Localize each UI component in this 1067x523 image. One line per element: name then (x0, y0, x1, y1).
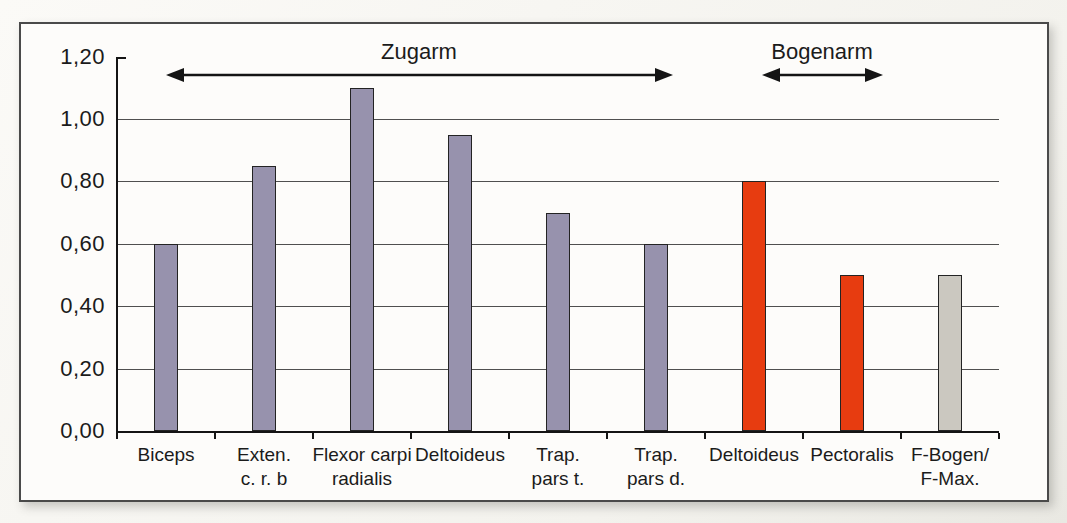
bar-8-f-bogen-f-max (938, 275, 962, 431)
y-tick-label: 0,60 (31, 233, 105, 255)
y-tick-label: 1,00 (31, 108, 105, 130)
bogenarm-label: Bogenarm (722, 39, 922, 65)
x-category-label-line: F-Max. (880, 467, 1020, 491)
bar-0-biceps (154, 244, 178, 431)
x-axis-tick (802, 433, 804, 439)
y-axis (116, 57, 118, 433)
zugarm-arrow (166, 67, 673, 83)
x-category-label-line: pars d. (586, 467, 726, 491)
x-category-label: F-Bogen/F-Max. (880, 443, 1020, 491)
x-axis-tick (410, 433, 412, 439)
x-axis-tick (214, 433, 216, 439)
chart-frame: 0,000,200,400,600,801,001,20BicepsExten.… (19, 22, 1049, 502)
x-axis (117, 431, 999, 433)
y-tick-label: 0,80 (31, 170, 105, 192)
x-axis-tick (312, 433, 314, 439)
y-tick-label: 0,00 (31, 420, 105, 442)
gridline (117, 181, 999, 182)
bar-6-deltoideus (742, 181, 766, 431)
x-axis-tick (116, 433, 118, 439)
x-category-label-line: radialis (292, 467, 432, 491)
bar-5-trap-pars-d (644, 244, 668, 431)
x-category-label-line: F-Bogen/ (880, 443, 1020, 467)
x-axis-tick (606, 433, 608, 439)
y-tick-label: 1,20 (31, 46, 105, 68)
gridline (117, 119, 999, 120)
x-axis-tick (900, 433, 902, 439)
bogenarm-arrow (762, 67, 883, 83)
bar-7-pectoralis (840, 275, 864, 431)
bar-chart: 0,000,200,400,600,801,001,20BicepsExten.… (21, 24, 1047, 500)
x-axis-tick (704, 433, 706, 439)
double-arrow-icon (762, 67, 883, 83)
x-axis-tick (998, 433, 1000, 439)
y-tick-label: 0,20 (31, 358, 105, 380)
zugarm-label: Zugarm (319, 39, 519, 65)
bar-1-exten-c-r-b (252, 166, 276, 431)
y-axis-top-tick (117, 57, 126, 59)
double-arrow-icon (166, 67, 673, 83)
x-axis-tick (508, 433, 510, 439)
y-tick-label: 0,40 (31, 295, 105, 317)
bar-3-deltoideus (448, 135, 472, 431)
bar-4-trap-pars-t (546, 213, 570, 431)
bar-2-flexor-carpi-radialis (350, 88, 374, 431)
